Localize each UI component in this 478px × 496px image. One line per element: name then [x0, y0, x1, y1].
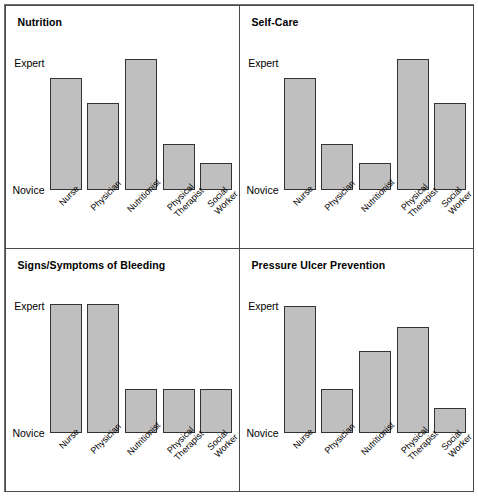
bar-slot [359, 51, 391, 190]
bar-slot [200, 294, 232, 433]
bar-physician [87, 304, 119, 432]
tick-slot: Physical Therapist [397, 190, 429, 248]
bar-slot [163, 294, 195, 433]
bar-nurse [50, 78, 82, 190]
tick-slot: Physical Therapist [163, 190, 195, 248]
plot-area: Expert Novice [50, 294, 233, 433]
tick-slot: Nutritionist [125, 190, 157, 248]
bar-physical-therapist [397, 59, 429, 190]
tick-labels: Nurse Physician Nutritionist Physical Th… [50, 433, 233, 491]
bar-nutritionist [359, 351, 391, 432]
chart-panel-nutrition: Nutrition Expert Novice Nurse Physician … [5, 5, 240, 249]
plot-area: Expert Novice [50, 51, 233, 190]
tick-labels: Nurse Physician Nutritionist Physical Th… [284, 190, 467, 248]
axis-label-novice: Novice [12, 427, 49, 439]
axis-label-expert: Expert [14, 57, 49, 69]
bar-slot [284, 51, 316, 190]
axis-label-expert: Expert [14, 300, 49, 312]
tick-slot: Nurse [284, 433, 316, 491]
bar-slot [125, 51, 157, 190]
chart-panel-bleeding: Signs/Symptoms of Bleeding Expert Novice… [5, 248, 240, 492]
panel-title: Nutrition [18, 16, 63, 28]
panel-title: Signs/Symptoms of Bleeding [18, 259, 166, 271]
bar-physician [87, 103, 119, 189]
tick-slot: Physical Therapist [163, 433, 195, 491]
panel-grid: Nutrition Expert Novice Nurse Physician … [4, 4, 474, 492]
bar-slot [200, 51, 232, 190]
tick-slot: Physician [321, 190, 353, 248]
tick-labels: Nurse Physician Nutritionist Physical Th… [284, 433, 467, 491]
plot-area: Expert Novice [284, 51, 467, 190]
chart-panel-self-care: Self-Care Expert Novice Nurse Physician … [239, 5, 474, 249]
bar-slot [397, 294, 429, 433]
bar-nurse [284, 78, 316, 190]
bar-slot [125, 294, 157, 433]
tick-slot: Nutritionist [359, 433, 391, 491]
plot-area: Expert Novice [284, 294, 467, 433]
tick-slot: Nutritionist [359, 190, 391, 248]
tick-slot: Social Worker [434, 433, 466, 491]
bar-nurse [50, 304, 82, 432]
bar-group [50, 294, 233, 433]
bar-slot [321, 51, 353, 190]
bar-slot [434, 294, 466, 433]
tick-slot: Physician [87, 190, 119, 248]
tick-slot: Social Worker [200, 433, 232, 491]
tick-slot: Nurse [284, 190, 316, 248]
tick-slot: Social Worker [434, 190, 466, 248]
tick-slot: Physician [87, 433, 119, 491]
tick-slot: Nutritionist [125, 433, 157, 491]
axis-label-novice: Novice [246, 184, 283, 196]
bar-slot [321, 294, 353, 433]
bar-slot [50, 294, 82, 433]
bar-slot [87, 51, 119, 190]
axis-label-expert: Expert [248, 300, 283, 312]
tick-labels: Nurse Physician Nutritionist Physical Th… [50, 190, 233, 248]
tick-slot: Nurse [50, 433, 82, 491]
bar-slot [359, 294, 391, 433]
bar-slot [434, 51, 466, 190]
bar-nutritionist [125, 59, 157, 190]
tick-slot: Physical Therapist [397, 433, 429, 491]
bar-slot [50, 51, 82, 190]
axis-label-novice: Novice [12, 184, 49, 196]
axis-label-novice: Novice [246, 427, 283, 439]
bar-slot [163, 51, 195, 190]
bar-group [284, 294, 467, 433]
axis-label-expert: Expert [248, 57, 283, 69]
tick-slot: Nurse [50, 190, 82, 248]
figure: Nutrition Expert Novice Nurse Physician … [0, 0, 478, 496]
bar-slot [87, 294, 119, 433]
bar-physical-therapist [397, 327, 429, 432]
panel-title: Pressure Ulcer Prevention [252, 259, 386, 271]
bar-social-worker [434, 103, 466, 189]
chart-panel-pressure-ulcer: Pressure Ulcer Prevention Expert Novice … [239, 248, 474, 492]
bar-group [50, 51, 233, 190]
panel-title: Self-Care [252, 16, 299, 28]
tick-slot: Physician [321, 433, 353, 491]
tick-slot: Social Worker [200, 190, 232, 248]
bar-slot [397, 51, 429, 190]
bar-nurse [284, 306, 316, 433]
bar-group [284, 51, 467, 190]
bar-slot [284, 294, 316, 433]
